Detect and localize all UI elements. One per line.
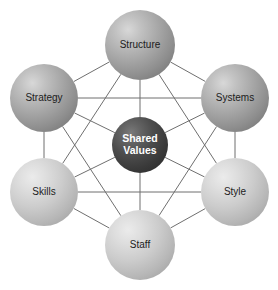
node-style-label: Style <box>224 186 246 197</box>
node-strategy-label: Strategy <box>25 92 62 103</box>
link-shared-values-to-skills <box>75 157 115 177</box>
node-staff[interactable]: Staff <box>105 210 175 280</box>
node-shared-values-label: Shared Values <box>122 133 158 157</box>
link-style-to-staff <box>171 209 206 228</box>
seven-s-framework-diagram: Structure Strategy Systems Shared Values… <box>0 0 278 290</box>
link-skills-to-staff <box>74 208 110 228</box>
link-shared-values-to-systems <box>165 113 204 133</box>
node-systems-label: Systems <box>216 92 254 103</box>
link-structure-to-strategy <box>74 62 110 82</box>
node-structure-label: Structure <box>120 39 161 50</box>
node-systems[interactable]: Systems <box>201 64 269 132</box>
node-strategy[interactable]: Strategy <box>10 64 78 132</box>
link-shared-values-to-style <box>165 157 204 177</box>
link-shared-values-to-strategy <box>75 113 115 133</box>
node-skills[interactable]: Skills <box>10 158 78 226</box>
node-style[interactable]: Style <box>201 158 269 226</box>
node-structure[interactable]: Structure <box>105 10 175 80</box>
node-shared-values-label-line2: Values <box>123 144 156 156</box>
node-staff-label: Staff <box>130 239 150 250</box>
link-structure-to-systems <box>171 62 206 81</box>
node-shared-values-label-line1: Shared <box>122 132 158 144</box>
node-shared-values[interactable]: Shared Values <box>112 117 168 173</box>
node-skills-label: Skills <box>32 186 55 197</box>
